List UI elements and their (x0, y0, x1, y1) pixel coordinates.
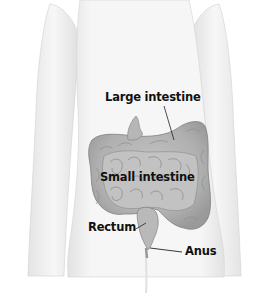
torso-illustration (0, 0, 269, 293)
label-anus: Anus (185, 246, 216, 258)
label-large-intestine: Large intestine (105, 92, 201, 104)
label-small-intestine: Small intestine (100, 172, 195, 184)
digestive-system-diagram: Large intestine Small intestine Rectum A… (0, 0, 269, 293)
label-rectum: Rectum (88, 222, 136, 234)
